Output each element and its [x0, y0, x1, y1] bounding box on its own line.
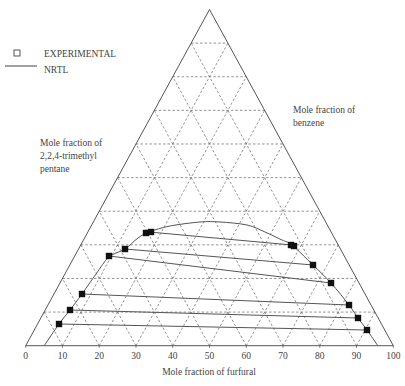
legend: EXPERIMENTAL NRTL — [5, 49, 116, 75]
tick-label: 60 — [242, 351, 252, 361]
tie-line — [109, 256, 331, 283]
tick-label: 0 — [23, 351, 28, 361]
experimental-points — [56, 229, 370, 333]
tick-label: 100 — [386, 351, 401, 361]
left-axis-title-line2: 2,2,4-trimethyl — [40, 151, 97, 161]
experimental-point — [310, 262, 316, 268]
experimental-point — [79, 291, 85, 297]
grid-line-right-parallel — [154, 110, 283, 345]
ternary-chart: 0102030405060708090100 EXPERIMENTAL NRTL… — [0, 0, 405, 386]
tick-label: 90 — [352, 351, 362, 361]
right-axis-title: Mole fraction of benzene — [293, 105, 356, 128]
experimental-point — [364, 327, 370, 333]
tie-line — [125, 249, 313, 265]
tick-label: 50 — [205, 351, 215, 361]
legend-square-icon — [14, 50, 20, 56]
experimental-point — [56, 321, 62, 327]
experimental-point — [148, 229, 154, 235]
grid-line-left-parallel — [62, 43, 227, 346]
experimental-point — [106, 253, 112, 259]
grid-line-left-parallel — [210, 178, 302, 346]
bottom-axis-title: Mole fraction of furfural — [162, 367, 256, 377]
grid-line-left-parallel — [136, 110, 265, 345]
experimental-point — [122, 246, 128, 252]
left-axis-title: Mole fraction of 2,2,4-trimethyl pentane — [40, 138, 103, 174]
tick-label: 70 — [278, 351, 288, 361]
right-axis-title-line1: Mole fraction of — [293, 105, 356, 115]
experimental-point — [346, 302, 352, 308]
tie-line — [70, 310, 358, 318]
tick-label: 30 — [131, 351, 141, 361]
experimental-point — [355, 315, 361, 321]
ternary-grid — [44, 43, 375, 346]
bottom-axis-ticks: 0102030405060708090100 — [23, 346, 400, 361]
tie-line — [59, 324, 367, 330]
tick-label: 40 — [168, 351, 178, 361]
left-axis-title-line1: Mole fraction of — [40, 138, 103, 148]
tie-line — [82, 294, 349, 305]
experimental-point — [67, 307, 73, 313]
left-axis-title-line3: pentane — [40, 164, 70, 174]
legend-experimental-label: EXPERIMENTAL — [44, 49, 116, 59]
grid-line-right-parallel — [191, 43, 356, 346]
tick-label: 10 — [58, 351, 68, 361]
grid-line-left-parallel — [283, 245, 338, 346]
right-axis-title-line2: benzene — [293, 118, 324, 128]
tick-label: 20 — [94, 351, 104, 361]
grid-line-right-parallel — [44, 312, 62, 346]
grid-line-right-parallel — [118, 178, 210, 346]
experimental-point — [291, 243, 297, 249]
tick-label: 80 — [315, 351, 325, 361]
experimental-point — [328, 280, 334, 286]
legend-nrtl-label: NRTL — [44, 65, 68, 75]
